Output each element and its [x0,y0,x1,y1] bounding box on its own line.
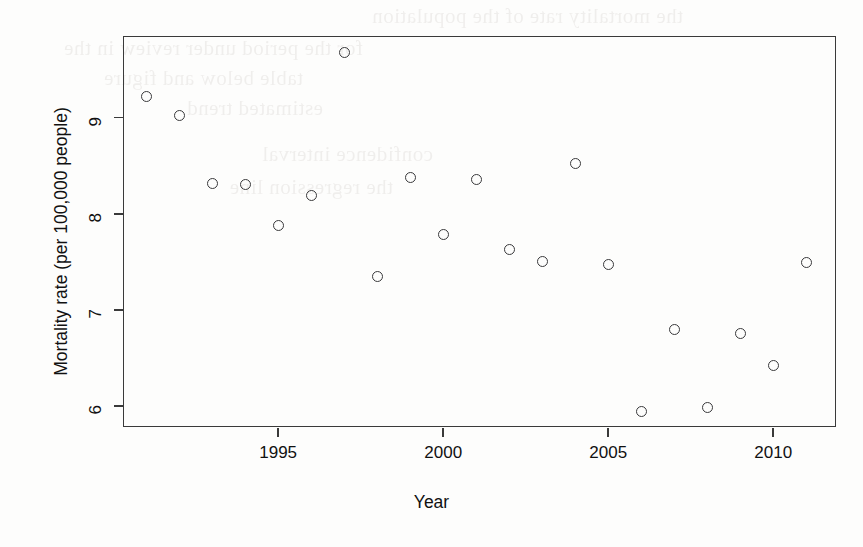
data-point [372,271,383,282]
data-point [801,257,812,268]
x-axis-title: Year [0,492,863,513]
x-tick-label: 2000 [408,443,478,463]
scatter-plot: 6789 1995200020052010 Mortality rate (pe… [0,0,863,547]
data-point [141,91,152,102]
data-point [537,256,548,267]
plot-frame [123,36,836,427]
y-tick [114,213,123,215]
data-point [702,402,713,413]
y-tick [114,405,123,407]
data-point [405,172,416,183]
y-tick [114,117,123,119]
data-point [174,110,185,121]
y-tick [114,309,123,311]
y-tick-label: 8 [86,213,106,243]
y-tick-label: 7 [86,309,106,339]
y-tick-label: 9 [86,117,106,147]
data-point [570,158,581,169]
data-point [339,47,350,58]
x-tick-label: 2005 [573,443,643,463]
y-tick-label: 6 [86,405,106,435]
x-tick [442,428,444,437]
data-point [636,406,647,417]
data-point [471,174,482,185]
x-tick-label: 2010 [738,443,808,463]
data-point [273,220,284,231]
data-point [603,259,614,270]
data-point [504,244,515,255]
data-point [306,190,317,201]
x-tick [772,428,774,437]
data-point [438,229,449,240]
figure-page: the mortality rate of the population for… [0,0,863,547]
x-tick [607,428,609,437]
data-point [768,360,779,371]
data-point [240,179,251,190]
y-axis-title: Mortality rate (per 100,000 people) [51,102,72,382]
x-tick [277,428,279,437]
x-tick-label: 1995 [243,443,313,463]
